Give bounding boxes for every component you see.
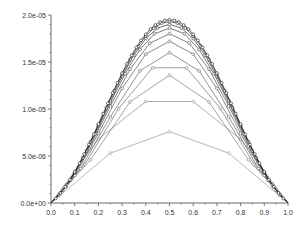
data-marker (109, 115, 112, 118)
data-marker (220, 81, 223, 84)
x-tick-label: 1.0 (283, 209, 293, 216)
data-marker (192, 53, 195, 56)
x-tick-label: 0.6 (188, 209, 198, 216)
y-tick-label: 2.0e-05 (22, 12, 46, 19)
data-marker (253, 153, 256, 156)
series-n-30 (51, 20, 288, 203)
x-tick-label: 0.0 (46, 209, 56, 216)
data-marker (168, 23, 171, 26)
data-marker (135, 46, 138, 49)
line-chart: 0.00.10.20.30.40.50.60.70.80.91.00.0e+00… (0, 0, 308, 229)
series-n-20 (51, 23, 288, 203)
data-series (51, 18, 288, 203)
data-marker (282, 197, 285, 200)
x-tick-label: 0.5 (165, 209, 175, 216)
data-marker (183, 32, 186, 35)
series-n-4 (51, 130, 288, 203)
series-n-12 (51, 32, 288, 203)
y-tick-label: 1.5e-05 (22, 59, 46, 66)
data-marker (277, 192, 280, 195)
data-marker (140, 39, 143, 42)
data-marker (151, 66, 154, 69)
series-n-7 (51, 66, 288, 203)
y-tick-label: 0.0e+00 (21, 200, 47, 207)
x-tick-label: 0.9 (259, 209, 269, 216)
data-marker (144, 100, 147, 103)
data-marker (106, 102, 109, 105)
y-tick-label: 5.0e-06 (22, 153, 46, 160)
data-marker (268, 178, 271, 181)
data-marker (216, 72, 219, 75)
data-marker (272, 185, 275, 188)
data-marker (188, 42, 191, 45)
data-marker (182, 24, 185, 27)
data-marker (225, 92, 228, 95)
x-tick-label: 0.2 (94, 209, 104, 216)
data-marker (239, 123, 242, 126)
data-marker (211, 62, 214, 65)
data-marker (156, 27, 159, 30)
series-n-6 (51, 74, 288, 203)
data-marker (109, 152, 112, 155)
data-marker (159, 21, 162, 24)
data-marker (69, 178, 72, 181)
data-marker (219, 107, 222, 110)
data-marker (201, 46, 204, 49)
data-marker (208, 101, 211, 104)
data-marker (154, 24, 157, 27)
data-marker (168, 32, 171, 35)
data-marker (206, 54, 209, 57)
data-marker (198, 70, 201, 73)
data-marker (144, 33, 147, 36)
data-marker (97, 123, 100, 126)
data-marker (192, 100, 195, 103)
data-marker (148, 42, 151, 45)
data-marker (121, 72, 124, 75)
data-marker (234, 112, 237, 115)
data-marker (227, 152, 230, 155)
data-marker (111, 92, 114, 95)
data-marker (230, 102, 233, 105)
data-marker (116, 81, 119, 84)
data-marker (244, 133, 247, 136)
data-marker (257, 167, 260, 170)
data-marker (168, 130, 171, 133)
x-tick-label: 0.3 (117, 209, 127, 216)
data-marker (121, 87, 124, 90)
data-marker (144, 53, 147, 56)
data-marker (64, 185, 67, 188)
x-tick-label: 0.4 (141, 209, 151, 216)
data-marker (130, 54, 133, 57)
chart-canvas: 0.00.10.20.30.40.50.60.70.80.91.00.0e+00… (0, 0, 308, 229)
data-marker (192, 33, 195, 36)
data-marker (117, 107, 120, 110)
data-marker (153, 32, 156, 35)
data-marker (102, 112, 105, 115)
x-tick-label: 0.8 (236, 209, 246, 216)
data-marker (149, 28, 152, 31)
data-marker (197, 39, 200, 42)
data-marker (129, 101, 132, 104)
data-marker (129, 68, 132, 71)
data-marker (163, 19, 166, 22)
data-marker (125, 62, 128, 65)
data-marker (216, 87, 219, 90)
data-marker (168, 27, 171, 30)
data-marker (168, 18, 171, 21)
data-marker (138, 70, 141, 73)
data-marker (78, 162, 81, 165)
data-marker (187, 28, 190, 31)
data-marker (227, 115, 230, 118)
data-marker (89, 158, 92, 161)
data-marker (178, 21, 181, 24)
data-marker (54, 197, 57, 200)
series-n-10 (51, 40, 288, 203)
data-marker (83, 153, 86, 156)
data-marker (208, 68, 211, 71)
x-tick-label: 0.1 (70, 209, 80, 216)
y-tick-label: 1.0e-05 (22, 106, 46, 113)
data-marker (168, 74, 171, 77)
data-marker (79, 167, 82, 170)
data-marker (168, 40, 171, 43)
data-marker (185, 66, 188, 69)
